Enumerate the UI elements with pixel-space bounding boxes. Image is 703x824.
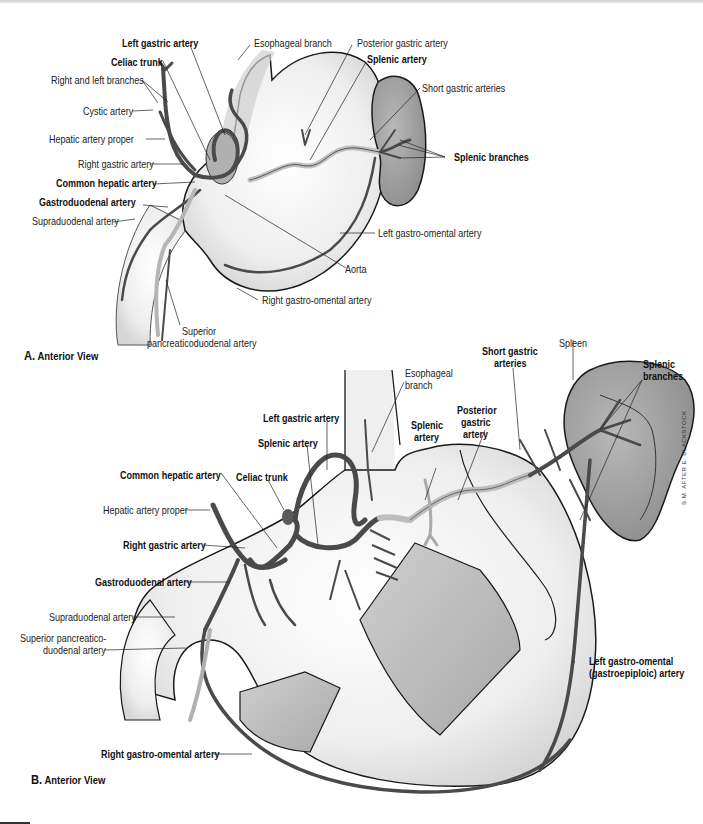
label-b-left-go-line1: Left gastro-omental (589, 655, 673, 667)
label-a-gastroduodenal-artery: Gastroduodenal artery (39, 196, 136, 208)
label-b-right-gastro-omental-artery: Right gastro-omental artery (101, 748, 219, 760)
label-a-short-gastric-arteries: Short gastric arteries (422, 82, 505, 94)
label-a-esophageal-branch: Esophageal branch (254, 37, 332, 49)
label-a-posterior-gastric-artery: Posterior gastric artery (357, 37, 448, 49)
label-b-splenic-branches-line2: branches (643, 370, 683, 382)
label-a-common-hepatic-artery: Common hepatic artery (56, 177, 157, 189)
label-b-esophageal-line2: branch (405, 379, 433, 391)
label-b-splenic-artery-left: Splenic artery (258, 437, 318, 449)
anatomy-illustration (0, 0, 703, 824)
label-b-superior-pd-line2: duodenal artery (43, 644, 106, 656)
panel-a-letter: A. (24, 348, 35, 363)
label-b-short-gastric-line2: arteries (494, 357, 527, 369)
label-a-splenic-artery: Splenic artery (367, 53, 427, 65)
label-a-superior-pd-line1: Superior (182, 325, 216, 337)
label-b-celiac-trunk: Celiac trunk (236, 471, 288, 483)
label-b-posterior-gastric-line2: gastric (461, 416, 491, 428)
label-b-short-gastric-line1: Short gastric (482, 345, 538, 357)
panel-b-caption: B. Anterior View (31, 772, 105, 787)
spleen-a (372, 76, 426, 205)
label-a-superior-pd-line2: pancreaticoduodenal artery (147, 337, 256, 349)
label-b-esophageal-line1: Esophageal (405, 367, 453, 379)
label-b-left-gastric-artery: Left gastric artery (263, 412, 339, 424)
label-a-celiac-trunk: Celiac trunk (111, 56, 163, 68)
esophagus-b (345, 370, 395, 470)
label-b-spleen: Spleen (559, 337, 587, 349)
label-a-right-left-branches: Right and left branches (51, 74, 144, 86)
label-a-splenic-branches: Splenic branches (454, 151, 529, 163)
label-a-cystic-artery: Cystic artery (83, 105, 133, 117)
label-b-splenic-artery-mid-line1: Splenic (411, 419, 443, 431)
label-a-hepatic-artery-proper: Hepatic artery proper (49, 133, 134, 145)
panel-b-letter: B. (31, 772, 42, 787)
label-b-posterior-gastric-line3: artery (463, 428, 488, 440)
label-b-supraduodenal-artery: Supraduodenal artery (49, 611, 136, 623)
label-b-posterior-gastric-line1: Posterior (457, 404, 497, 416)
panel-a-caption: A. Anterior View (24, 348, 98, 363)
label-b-right-gastric-artery: Right gastric artery (123, 539, 206, 551)
label-b-gastroduodenal-artery: Gastroduodenal artery (95, 576, 192, 588)
label-b-hepatic-artery-proper: Hepatic artery proper (103, 504, 188, 516)
label-b-splenic-artery-mid-line2: artery (414, 431, 439, 443)
label-a-right-gastric-artery: Right gastric artery (78, 158, 154, 170)
panel-b-drawing (120, 361, 694, 792)
label-a-right-gastro-omental-artery: Right gastro-omental artery (262, 294, 371, 306)
spleen-b (564, 361, 694, 540)
label-b-common-hepatic-artery: Common hepatic artery (120, 469, 221, 481)
panel-b-title: Anterior View (44, 774, 105, 786)
label-b-left-go-line2: (gastroepiploic) artery (589, 667, 684, 679)
label-a-aorta: Aorta (345, 263, 367, 275)
label-b-superior-pd-line1: Superior pancreatico- (20, 632, 106, 644)
panel-a-title: Anterior View (37, 350, 98, 362)
label-a-left-gastric-artery: Left gastric artery (122, 37, 198, 49)
label-a-left-gastro-omental-artery: Left gastro-omental artery (378, 227, 481, 239)
label-a-supraduodenal-artery: Supraduodenal artery (32, 215, 119, 227)
label-b-splenic-branches-line1: Splenic (643, 358, 675, 370)
artist-signature: S.M. AFTER E. BLACKSTOCK (681, 410, 687, 505)
